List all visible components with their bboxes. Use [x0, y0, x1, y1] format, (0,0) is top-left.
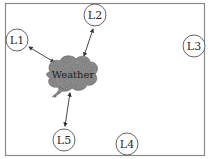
node-label: L4 — [120, 138, 134, 151]
node-label: L2 — [88, 9, 102, 22]
node-L1[interactable]: L1 — [6, 29, 28, 51]
weather-label: Weather — [52, 69, 95, 80]
node-L3[interactable]: L3 — [183, 35, 205, 57]
edge-weather-L1 — [29, 47, 54, 62]
edge-weather-L5 — [65, 93, 70, 126]
weather-cloud[interactable]: Weather — [47, 56, 98, 98]
node-label: L5 — [57, 134, 71, 147]
frame-border — [6, 4, 205, 156]
node-L2[interactable]: L2 — [84, 4, 106, 26]
node-L4[interactable]: L4 — [116, 133, 138, 155]
node-label: L3 — [187, 40, 201, 53]
node-label: L1 — [10, 34, 24, 47]
edge-weather-L2 — [84, 29, 93, 56]
diagram-canvas: Weather L1 L2 L3 L4 L5 — [0, 0, 208, 159]
node-L5[interactable]: L5 — [53, 129, 75, 151]
